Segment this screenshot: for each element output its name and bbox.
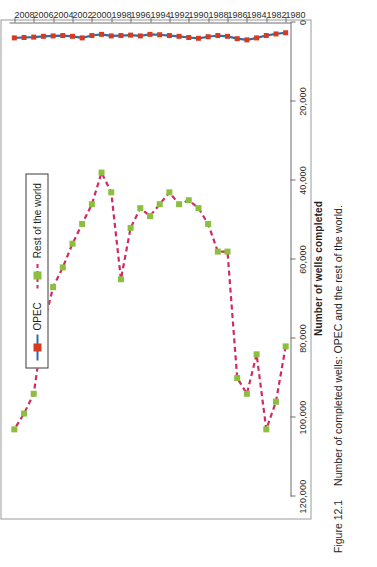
data-point xyxy=(89,33,94,38)
data-point xyxy=(148,32,153,37)
data-point xyxy=(273,31,278,36)
legend-entry-rest-of-world: Rest of the world xyxy=(32,183,43,288)
data-point xyxy=(12,35,17,40)
data-point xyxy=(177,34,182,39)
data-point xyxy=(50,284,56,290)
data-point xyxy=(89,201,95,207)
data-point xyxy=(99,32,104,37)
data-point xyxy=(51,33,56,38)
legend-label-rest-of-world: Rest of the world xyxy=(32,183,43,258)
data-point xyxy=(264,33,269,38)
data-point xyxy=(109,33,114,38)
data-point xyxy=(254,35,259,40)
data-point xyxy=(235,36,240,41)
data-point xyxy=(31,35,36,40)
chart-legend: OPEC Rest of the world xyxy=(26,173,49,368)
series-layer xyxy=(2,0,317,519)
figure-caption-text: Number of completed wells: OPEC and the … xyxy=(332,205,344,486)
data-point xyxy=(244,391,250,397)
data-point xyxy=(80,35,85,40)
legend-marker-opec xyxy=(34,344,42,352)
data-point xyxy=(196,36,201,41)
figure-container: 020,00040,00060,00080,000100,000120,000 … xyxy=(0,0,377,567)
data-point xyxy=(215,249,221,255)
data-point xyxy=(166,189,172,195)
series-markers-opec xyxy=(12,30,288,42)
data-point xyxy=(60,264,66,270)
data-point xyxy=(60,33,65,38)
data-point xyxy=(176,201,182,207)
data-point xyxy=(41,34,46,39)
data-point xyxy=(254,351,260,357)
data-point xyxy=(206,34,211,39)
data-point xyxy=(79,221,85,227)
data-point xyxy=(11,426,17,432)
data-point xyxy=(70,34,75,39)
legend-label-opec: OPEC xyxy=(32,302,43,330)
data-point xyxy=(157,32,162,37)
chart-rotor: 020,00040,00060,00080,000100,000120,000 … xyxy=(1,0,316,520)
data-point xyxy=(244,37,249,42)
figure-caption-wrapper: Figure 12.1 Number of completed wells: O… xyxy=(325,0,351,567)
legend-entry-opec: OPEC xyxy=(32,302,43,360)
data-point xyxy=(108,189,114,195)
data-point xyxy=(225,249,231,255)
data-point xyxy=(186,35,191,40)
figure-number: Figure 12.1 xyxy=(332,500,344,553)
data-point xyxy=(137,205,143,211)
figure-caption: Figure 12.1 Number of completed wells: O… xyxy=(325,0,351,567)
series-markers-rest-of-the-world xyxy=(11,170,288,433)
data-point xyxy=(21,411,27,417)
data-point xyxy=(118,33,123,38)
data-point xyxy=(128,225,134,231)
data-point xyxy=(128,33,133,38)
data-point xyxy=(69,241,75,247)
data-point xyxy=(31,391,37,397)
data-point xyxy=(167,33,172,38)
plot-frame: 020,00040,00060,00080,000100,000120,000 … xyxy=(1,20,312,520)
data-point xyxy=(283,30,288,35)
data-point xyxy=(118,276,124,282)
legend-swatch-opec xyxy=(32,335,43,361)
data-point xyxy=(138,33,143,38)
data-point xyxy=(283,343,289,349)
data-point xyxy=(22,35,27,40)
data-point xyxy=(215,33,220,38)
data-point xyxy=(205,221,211,227)
data-point xyxy=(147,213,153,219)
data-point xyxy=(195,205,201,211)
legend-marker-rest-of-world xyxy=(34,271,42,279)
data-point xyxy=(263,426,269,432)
legend-swatch-rest-of-world xyxy=(32,262,43,288)
data-point xyxy=(157,201,163,207)
data-point xyxy=(186,197,192,203)
data-point xyxy=(273,399,279,405)
data-point xyxy=(225,34,230,39)
data-point xyxy=(99,170,105,176)
data-point xyxy=(234,375,240,381)
